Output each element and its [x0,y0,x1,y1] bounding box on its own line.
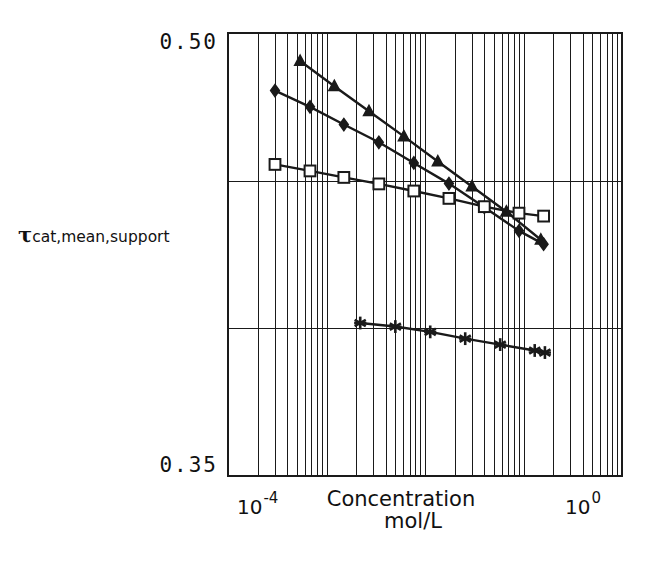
x-axis-title: Concentration mol/L [286,489,516,533]
data-point-square [305,166,316,177]
x-axis-title-line1: Concentration [327,487,476,511]
y-axis-title-subscript: cat,mean,support [32,228,169,246]
x-tick-left-mantissa: 10 [237,495,262,519]
plot-area [0,0,652,570]
data-point-square [373,179,384,190]
y-axis-tick-label-bottom: 0.35 [108,453,218,477]
y-axis-tick-label-top: 0.50 [108,30,218,54]
x-tick-left-exponent: -4 [263,489,278,507]
x-axis-title-line2: mol/L [286,511,516,533]
x-axis-tick-label-left: 10-4 [237,492,277,519]
data-point-square [479,201,490,212]
chart-figure: 0.50 0.35 τcat,mean,support 10-4 100 Con… [0,0,652,570]
data-point-square [338,172,349,183]
x-tick-right-exponent: 0 [591,489,601,507]
x-tick-right-mantissa: 10 [565,495,590,519]
data-point-square [270,159,281,170]
x-axis-tick-label-right: 100 [565,492,600,519]
data-point-square [444,193,455,204]
data-point-square [538,211,549,222]
data-point-square [408,186,419,197]
data-point-square [514,208,525,219]
y-axis-title-symbol: τ [18,222,32,247]
y-axis-title: τcat,mean,support [18,222,223,247]
